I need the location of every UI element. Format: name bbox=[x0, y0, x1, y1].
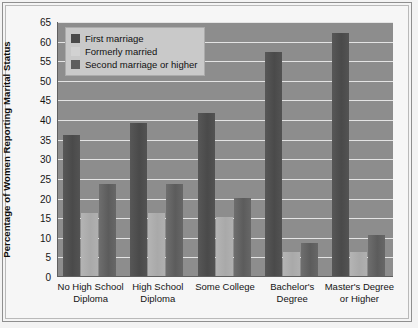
legend-item: Formerly married bbox=[71, 45, 197, 58]
y-axis-tick-60: 60 bbox=[1, 36, 51, 47]
bar bbox=[148, 213, 165, 276]
bar bbox=[350, 252, 367, 276]
legend-swatch-icon bbox=[71, 60, 80, 69]
x-axis-label-line: or Higher bbox=[320, 293, 399, 305]
y-axis-tick-40: 40 bbox=[1, 115, 51, 126]
y-axis-tick-10: 10 bbox=[1, 232, 51, 243]
bar bbox=[81, 213, 98, 276]
legend-swatch-icon bbox=[71, 34, 80, 43]
bar bbox=[301, 243, 318, 276]
legend-swatch-icon bbox=[71, 47, 80, 56]
y-axis-tick-5: 5 bbox=[1, 252, 51, 263]
bar bbox=[130, 123, 147, 276]
legend-label: Formerly married bbox=[85, 46, 157, 57]
bar bbox=[198, 113, 215, 276]
y-axis-tick-35: 35 bbox=[1, 134, 51, 145]
bar-group bbox=[265, 22, 318, 276]
chart-screenshot: Percentage of Women Reporting Marital St… bbox=[0, 0, 418, 328]
bar-group bbox=[332, 22, 385, 276]
chart-legend: First marriageFormerly marriedSecond mar… bbox=[65, 27, 205, 76]
y-axis-tick-45: 45 bbox=[1, 95, 51, 106]
x-axis-label-line: Master's Degree bbox=[320, 281, 399, 293]
y-axis-title-text: Percentage of Women Reporting Marital St… bbox=[1, 41, 12, 257]
y-axis-tick-50: 50 bbox=[1, 75, 51, 86]
y-axis-tick-25: 25 bbox=[1, 173, 51, 184]
legend-item: First marriage bbox=[71, 32, 197, 45]
bar bbox=[166, 184, 183, 276]
x-axis-label-line: Diploma bbox=[118, 293, 197, 305]
legend-item: Second marriage or higher bbox=[71, 58, 197, 71]
y-axis-tick-15: 15 bbox=[1, 213, 51, 224]
y-axis-tick-30: 30 bbox=[1, 154, 51, 165]
y-axis-tick-55: 55 bbox=[1, 56, 51, 67]
legend-label: First marriage bbox=[85, 33, 144, 44]
bar bbox=[265, 52, 282, 276]
bar bbox=[99, 184, 116, 276]
legend-label: Second marriage or higher bbox=[85, 59, 197, 70]
y-axis-tick-0: 0 bbox=[1, 272, 51, 283]
bar bbox=[283, 252, 300, 276]
bar bbox=[234, 198, 251, 276]
x-axis-label: Master's Degreeor Higher bbox=[320, 281, 399, 304]
bar bbox=[368, 235, 385, 276]
y-axis-tick-20: 20 bbox=[1, 193, 51, 204]
bar bbox=[63, 135, 80, 276]
bar bbox=[216, 217, 233, 276]
y-axis-tick-65: 65 bbox=[1, 17, 51, 28]
bar bbox=[332, 33, 349, 276]
